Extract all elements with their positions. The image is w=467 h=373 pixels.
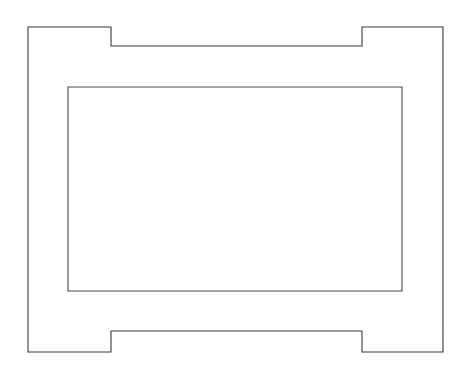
line-drawing-svg bbox=[0, 0, 467, 373]
drawing-canvas bbox=[0, 0, 467, 373]
inner-rectangle bbox=[68, 87, 402, 291]
